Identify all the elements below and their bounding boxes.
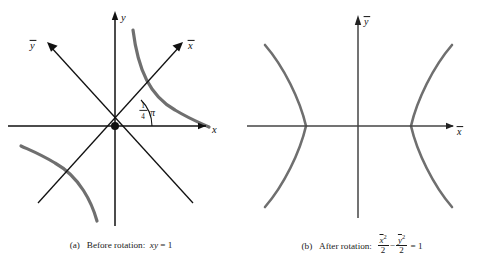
equation-b-term-2: y22	[396, 236, 407, 255]
axis-xbar-arrowhead	[173, 42, 184, 52]
angle-numerator: 1	[141, 102, 145, 110]
svg-text:x: x	[456, 126, 462, 137]
equation-a-rhs: 1	[168, 240, 173, 250]
plot-a: x y x y 1 4 π	[0, 0, 242, 236]
caption-a-tag: (a)	[70, 240, 80, 250]
axis-ybar-label: y	[363, 16, 370, 27]
equation-b-num2-exp: 2	[402, 233, 405, 240]
origin-marker	[111, 122, 119, 130]
equation-b-den2: 2	[396, 245, 407, 255]
equation-a-rel: =	[160, 240, 165, 250]
hyperbola-branch-quadrant-3	[21, 146, 97, 221]
equation-b-minus: −	[390, 241, 395, 251]
svg-text:y: y	[363, 16, 369, 27]
axis-ybar-arrowhead	[47, 42, 58, 52]
panel-before-rotation: x y x y 1 4 π	[0, 0, 242, 263]
equation-b-den1: 2	[378, 245, 389, 255]
angle-pi-symbol: π	[150, 107, 156, 118]
caption-b-equation: x22−y22 = 1	[377, 241, 423, 251]
angle-denominator: 4	[141, 113, 145, 121]
caption-b-text: After rotation:	[319, 241, 372, 251]
axis-xbar-arrowhead	[446, 123, 454, 129]
equation-b-rel: =	[410, 241, 415, 251]
equation-b-term-1: x22	[378, 236, 389, 255]
caption-panel-b: (b) After rotation: x22−y22 = 1	[241, 236, 483, 255]
equation-b-num1-exp: 2	[384, 233, 387, 240]
angle-label: 1 4 π	[139, 102, 156, 121]
axis-y-arrowhead	[112, 11, 118, 20]
plot-b: x y	[241, 0, 483, 232]
panel-after-rotation: x y	[241, 0, 483, 263]
axis-xbar-label: x	[456, 126, 463, 137]
axis-xbar-label: x	[187, 40, 195, 51]
axis-y-label: y	[120, 12, 126, 23]
rotation-figure: x y x y 1 4 π	[0, 0, 483, 263]
caption-a-equation: xy = 1	[150, 240, 173, 250]
caption-a-text: Before rotation:	[87, 240, 145, 250]
svg-text:x: x	[187, 40, 193, 51]
caption-panel-a: (a) Before rotation: xy = 1	[0, 240, 242, 250]
axis-xbar-line	[38, 46, 180, 203]
svg-text:y: y	[29, 40, 35, 51]
axis-ybar-label: y	[29, 40, 36, 51]
axis-ybar-line	[50, 46, 193, 203]
caption-b-tag: (b)	[302, 241, 313, 251]
axis-x-label: x	[211, 124, 217, 135]
equation-a-y: y	[154, 240, 158, 250]
axis-ybar-arrowhead	[355, 15, 361, 25]
equation-b-rhs: 1	[418, 241, 423, 251]
